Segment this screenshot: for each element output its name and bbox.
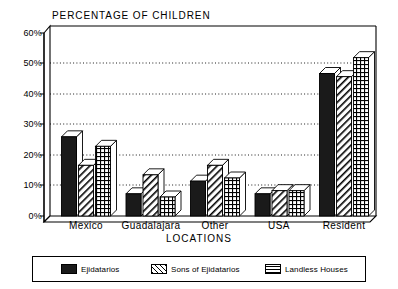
legend-item-ejidatarios: Ejidatarios xyxy=(61,262,119,276)
bar-usa-series3 xyxy=(289,185,310,216)
bar-resident-series3 xyxy=(354,52,375,216)
legend-label-sons-of-ejidatarios: Sons of Ejidatarios xyxy=(171,265,240,274)
x-tick-mexico: Mexico xyxy=(69,220,103,231)
bar-mexico-series3 xyxy=(96,140,117,216)
legend-swatch-solid-icon xyxy=(61,264,77,274)
bar-chart: PERCENTAGE OF CHILDREN 60% 50% 40% 30% 2… xyxy=(0,0,398,289)
bars-layer xyxy=(0,0,398,289)
legend-item-sons-of-ejidatarios: Sons of Ejidatarios xyxy=(151,262,240,276)
x-tick-other: Other xyxy=(201,220,228,231)
bar-other-series3 xyxy=(225,172,246,216)
legend-label-landless-houses: Landless Houses xyxy=(285,265,348,274)
legend-item-landless-houses: Landless Houses xyxy=(265,262,348,276)
legend-label-ejidatarios: Ejidatarios xyxy=(81,265,119,274)
x-tick-resident: Resident xyxy=(323,220,366,231)
chart-legend: Ejidatarios Sons of Ejidatarios Landless… xyxy=(32,256,366,282)
legend-swatch-grid-icon xyxy=(265,264,281,274)
x-tick-guadalajara: Guadalajara xyxy=(122,220,181,231)
x-axis-label: LOCATIONS xyxy=(0,233,398,244)
x-tick-usa: USA xyxy=(268,220,290,231)
legend-swatch-diagonal-icon xyxy=(151,264,167,274)
bar-guadalajara-series3 xyxy=(160,191,181,216)
